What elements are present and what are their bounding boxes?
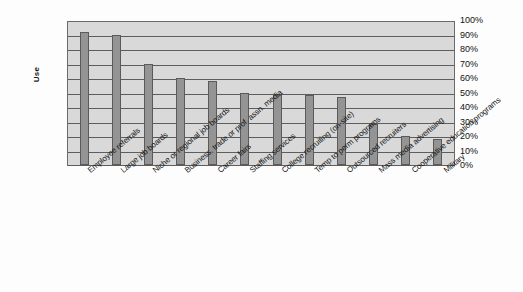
- y-axis-tick-label: 100%: [460, 16, 500, 25]
- bar-slot: [68, 22, 100, 165]
- y-axis-tick-label: 70%: [460, 60, 500, 69]
- y-axis-tick-labels: 100%90%80%70%60%50%40%30%20%10%0%: [460, 21, 508, 166]
- bar-chart: Use 100%90%80%70%60%50%40%30%20%10%0% Em…: [0, 0, 523, 292]
- bar[interactable]: [80, 32, 89, 165]
- y-axis-tick-label: 20%: [460, 132, 500, 141]
- y-axis-tick-label: 10%: [460, 147, 500, 156]
- y-axis-title: Use: [32, 53, 41, 97]
- y-axis-tick-label: 90%: [460, 31, 500, 40]
- y-axis-tick-label: 80%: [460, 45, 500, 54]
- x-axis-tick-labels: Employee referralsLarge job boardsNiche …: [67, 166, 455, 286]
- y-axis-tick-label: 60%: [460, 74, 500, 83]
- y-axis-tick-label: 0%: [460, 161, 500, 170]
